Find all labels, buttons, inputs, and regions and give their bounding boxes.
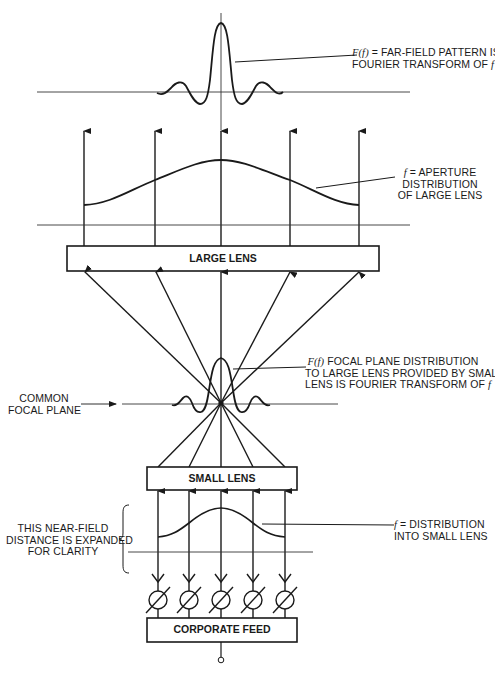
diagram-canvas: [0, 0, 495, 676]
phase-shifter-icon: [209, 587, 233, 618]
focal-distribution-leader: [233, 367, 306, 369]
phase-shifter-icon: [241, 587, 265, 618]
small-lens-input-arrows: [158, 491, 285, 582]
focal-distribution-label: F(f) FOCAL PLANE DISTRIBUTION TO LARGE L…: [305, 356, 481, 391]
large-lens-output-arrows: [84, 131, 359, 246]
ray: [85, 272, 221, 403]
aperture-label: f = APERTURE DISTRIBUTION OF LARGE LENS: [392, 167, 488, 202]
common-focal-plane-label: COMMON FOCAL PLANE: [8, 393, 80, 416]
focal-rays-lower: [158, 403, 285, 467]
small-lens-label: SMALL LENS: [147, 472, 297, 484]
near-field-label: THIS NEAR-FIELD DISTANCE IS EXPANDED FOR…: [6, 523, 120, 558]
small-distribution-label: f = DISTRIBUTION INTO SMALL LENS: [394, 519, 480, 542]
phase-shifter-icon: [146, 587, 170, 618]
far-field-leader: [235, 55, 357, 62]
ray: [156, 272, 221, 403]
phase-shifter-icon: [273, 587, 297, 618]
feed-input-port-icon: [218, 657, 224, 663]
large-lens-label: LARGE LENS: [67, 252, 379, 264]
corporate-feed-label: CORPORATE FEED: [147, 623, 297, 635]
phase-shifters: [146, 587, 297, 618]
aperture-leader: [316, 177, 395, 188]
far-field-symbol: F(f): [352, 47, 369, 58]
far-field-label: F(f) = FAR-FIELD PATTERN IS FOURIER TRAN…: [352, 47, 492, 70]
phase-shifter-icon: [177, 587, 201, 618]
small-distribution-leader: [262, 524, 394, 525]
